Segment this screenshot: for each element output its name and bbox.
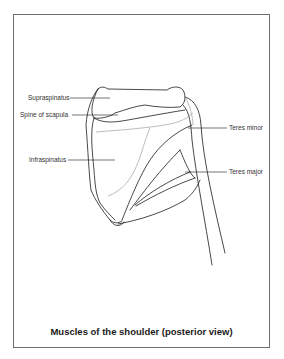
spine-of-scapula	[94, 110, 185, 122]
label-teres-minor: Teres minor	[229, 124, 263, 132]
diagram-caption: Muscles of the shoulder (posterior view)	[13, 326, 270, 337]
scapula-left-border	[86, 89, 122, 223]
label-supraspinatus: Supraspinatus	[28, 94, 70, 102]
label-spine-of-scapula: Spine of scapula	[20, 111, 68, 119]
label-infraspinatus: Infraspinatus	[29, 156, 66, 164]
shoulder-illustration	[0, 0, 284, 359]
supraspinatus-outline	[92, 87, 185, 118]
teres-minor-fiber	[122, 125, 192, 220]
teres-major-band	[118, 180, 200, 224]
label-teres-major: Teres major	[229, 168, 263, 176]
humerus-posterior	[185, 97, 225, 253]
